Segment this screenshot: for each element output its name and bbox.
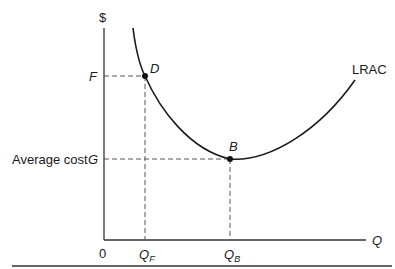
lrac-diagram: $ Q 0 LRAC Average cost F G D B QF QB: [0, 0, 395, 269]
point-label-d: D: [150, 61, 159, 76]
tick-label-qf-main: Q: [139, 247, 149, 262]
tick-label-qb: QB: [224, 247, 240, 264]
origin-label: 0: [99, 246, 106, 261]
curve-label: LRAC: [352, 62, 387, 77]
tick-label-g: G: [88, 152, 98, 167]
point-label-b: B: [229, 139, 238, 154]
tick-label-qf: QF: [139, 247, 155, 264]
point-d: [142, 73, 148, 79]
x-axis-label: Q: [372, 233, 382, 248]
point-b: [227, 156, 233, 162]
tick-label-qb-main: Q: [224, 247, 234, 262]
average-cost-label: Average cost: [12, 152, 88, 167]
tick-label-qf-subscript: F: [149, 254, 155, 264]
tick-label-qb-subscript: B: [234, 254, 240, 264]
tick-label-f: F: [89, 69, 98, 84]
y-axis-label: $: [99, 10, 107, 25]
lrac-curve: [133, 28, 355, 159]
